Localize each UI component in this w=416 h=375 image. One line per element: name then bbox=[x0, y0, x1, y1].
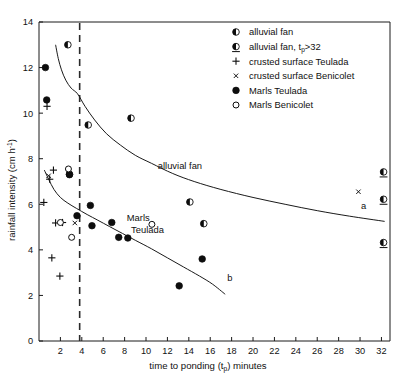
y-tick-label: 2 bbox=[28, 291, 33, 301]
legend-label-1: alluvial fan, tp>32 bbox=[249, 41, 321, 54]
data-point bbox=[66, 171, 73, 178]
legend-marker-3 bbox=[234, 74, 238, 78]
data-point bbox=[125, 235, 132, 242]
legend-marker-2 bbox=[232, 58, 239, 65]
legend-marker-5 bbox=[233, 102, 239, 108]
x-tick-label: 32 bbox=[376, 346, 386, 356]
marls-teulada-label-line2: Teulada bbox=[131, 224, 165, 235]
x-axis-tick-labels: 2468101214161820222426283032 bbox=[58, 346, 387, 356]
chart-legend: alluvial fanalluvial fan, tp>32crusted s… bbox=[232, 26, 355, 110]
y-axis-title-text: rainfall intensity (cm h-1) bbox=[6, 139, 17, 241]
data-point bbox=[40, 199, 47, 206]
series-alluvial-fan bbox=[65, 41, 208, 226]
marls-annotation-marker bbox=[149, 221, 155, 227]
y-tick-label: 0 bbox=[28, 336, 33, 346]
x-tick-label: 22 bbox=[269, 346, 279, 356]
y-tick-label: 10 bbox=[23, 109, 33, 119]
y-axis-title: rainfall intensity (cm h-1) bbox=[6, 139, 17, 241]
data-point bbox=[380, 196, 388, 204]
plot-annotations: alluvial fanMarlsTeuladaab bbox=[127, 160, 367, 283]
data-point bbox=[380, 169, 388, 177]
data-point bbox=[108, 219, 115, 226]
x-tick-label: 12 bbox=[162, 346, 172, 356]
data-point bbox=[199, 256, 206, 263]
data-point bbox=[85, 122, 92, 129]
data-point bbox=[74, 212, 81, 219]
data-point bbox=[187, 199, 194, 206]
data-point bbox=[200, 220, 207, 227]
x-tick-label: 2 bbox=[58, 346, 63, 356]
data-point bbox=[43, 103, 50, 110]
data-point bbox=[356, 190, 360, 194]
data-point bbox=[65, 41, 72, 48]
x-tick-label: 20 bbox=[248, 346, 258, 356]
series-alluvial-fan-tp-32 bbox=[380, 169, 388, 248]
alluvial-fan-curve-label: alluvial fan bbox=[158, 160, 202, 171]
regression-curves bbox=[44, 45, 384, 295]
legend-label-5: Marls Benicolet bbox=[249, 99, 313, 110]
x-tick-label: 10 bbox=[141, 346, 151, 356]
chart-svg: 2468101214161820222426283032 02468101214… bbox=[0, 0, 416, 375]
x-tick-label: 30 bbox=[355, 346, 365, 356]
y-tick-label: 4 bbox=[28, 245, 33, 255]
data-point bbox=[73, 221, 77, 225]
data-point bbox=[42, 64, 49, 71]
x-tick-label: 14 bbox=[184, 346, 194, 356]
data-point bbox=[50, 167, 57, 174]
x-tick-label: 6 bbox=[101, 346, 106, 356]
x-tick-label: 8 bbox=[122, 346, 127, 356]
legend-label-0: alluvial fan bbox=[249, 26, 293, 37]
data-point bbox=[380, 239, 388, 247]
data-point bbox=[115, 234, 122, 241]
data-point bbox=[87, 202, 94, 209]
x-tick-label: 18 bbox=[227, 346, 237, 356]
data-point bbox=[57, 220, 63, 226]
x-axis-title: time to ponding (tp) minutes bbox=[149, 360, 266, 373]
x-tick-label: 28 bbox=[334, 346, 344, 356]
marls-teulada-label-line1: Marls bbox=[127, 212, 150, 223]
y-axis-tick-labels: 02468101214 bbox=[23, 17, 33, 346]
x-tick-label: 26 bbox=[312, 346, 322, 356]
legend-label-2: crusted surface Teulada bbox=[249, 56, 349, 67]
curve-b-label: b bbox=[227, 272, 232, 283]
legend-label-4: Marls Teulada bbox=[249, 85, 308, 96]
y-tick-label: 14 bbox=[23, 17, 33, 27]
data-point bbox=[89, 222, 96, 229]
legend-marker-1 bbox=[232, 43, 240, 51]
data-point bbox=[65, 166, 71, 172]
series-crusted-surface-teulada bbox=[40, 103, 66, 280]
x-tick-label: 4 bbox=[79, 346, 84, 356]
data-point bbox=[128, 115, 135, 122]
x-tick-label: 16 bbox=[205, 346, 215, 356]
x-tick-label: 24 bbox=[291, 346, 301, 356]
x-axis-ticks bbox=[60, 337, 381, 341]
data-point bbox=[48, 254, 55, 261]
legend-marker-0 bbox=[233, 29, 240, 36]
legend-marker-4 bbox=[233, 87, 240, 94]
data-point bbox=[69, 234, 75, 240]
y-axis-ticks bbox=[39, 22, 43, 341]
data-point bbox=[176, 283, 183, 290]
legend-label-3: crusted surface Benicolet bbox=[249, 70, 355, 81]
y-tick-label: 8 bbox=[28, 154, 33, 164]
x-axis-title-text: time to ponding (tp) minutes bbox=[149, 360, 266, 373]
rainfall-intensity-scatter-chart: 2468101214161820222426283032 02468101214… bbox=[0, 0, 416, 375]
y-tick-label: 12 bbox=[23, 63, 33, 73]
data-point bbox=[43, 97, 50, 104]
data-point bbox=[56, 272, 63, 279]
y-tick-label: 6 bbox=[28, 200, 33, 210]
curve-a-label: a bbox=[361, 200, 367, 211]
